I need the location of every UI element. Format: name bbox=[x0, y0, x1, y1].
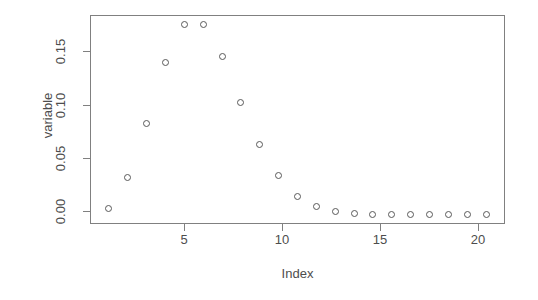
y-tick-label: 0.10 bbox=[53, 86, 68, 126]
x-axis-title: Index bbox=[90, 266, 505, 281]
y-tick-mark bbox=[83, 158, 90, 159]
scatter-plot-figure: 0.00 0.05 0.10 0.15 5 10 15 20 variable … bbox=[0, 0, 538, 300]
x-tick-label: 20 bbox=[458, 232, 498, 247]
plot-panel-border bbox=[90, 15, 505, 224]
y-tick-mark bbox=[83, 211, 90, 212]
x-tick-mark bbox=[282, 224, 283, 231]
y-tick-label: 0.00 bbox=[53, 192, 68, 232]
y-tick-mark bbox=[83, 105, 90, 106]
x-tick-mark bbox=[478, 224, 479, 231]
x-tick-label: 10 bbox=[262, 232, 302, 247]
x-tick-mark bbox=[380, 224, 381, 231]
y-tick-mark bbox=[83, 51, 90, 52]
y-axis-title: variable bbox=[40, 66, 55, 166]
x-tick-label: 5 bbox=[164, 232, 204, 247]
x-tick-mark bbox=[184, 224, 185, 231]
y-tick-label: 0.15 bbox=[53, 32, 68, 72]
x-tick-label: 15 bbox=[360, 232, 400, 247]
y-tick-label: 0.05 bbox=[53, 139, 68, 179]
